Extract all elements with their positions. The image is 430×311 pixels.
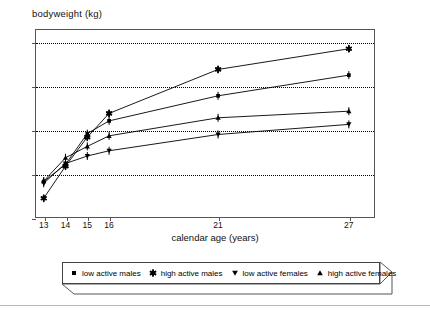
legend-item-low-active-females[interactable]: low active females — [230, 268, 308, 278]
x-tick-label: 13 — [39, 220, 48, 230]
triangle-down-marker-icon — [230, 268, 240, 278]
x-axis-label: calendar age (years) — [0, 232, 430, 243]
y-tick-mark — [32, 43, 36, 44]
x-tick-label: 14 — [61, 220, 70, 230]
legend-item-high-active-females[interactable]: high active females — [315, 268, 396, 278]
x-tick-label: 15 — [83, 220, 92, 230]
gridline — [36, 175, 374, 176]
legend-label: high active females — [328, 269, 396, 278]
legend-item-high-active-males[interactable]: high active males — [148, 268, 223, 278]
legend-label: low active males — [82, 269, 141, 278]
legend-label: high active males — [161, 269, 223, 278]
y-tick-mark — [32, 175, 36, 176]
square-marker-icon — [69, 268, 79, 278]
legend-box: low active maleshigh active maleslow act… — [62, 262, 380, 284]
x-tick-label: 16 — [104, 220, 113, 230]
x-tick-label: 21 — [213, 220, 222, 230]
gridline — [36, 87, 374, 88]
plot-area — [35, 29, 375, 218]
y-tick-mark — [32, 131, 36, 132]
star-marker-icon — [148, 268, 158, 278]
footer-divider — [0, 305, 430, 306]
chart-legend: low active maleshigh active maleslow act… — [62, 262, 398, 296]
x-tick-label: 27 — [344, 220, 353, 230]
legend-label: low active females — [243, 269, 308, 278]
y-tick-mark — [32, 87, 36, 88]
triangle-up-marker-icon — [315, 268, 325, 278]
gridline — [36, 131, 374, 132]
chart-figure: bodyweight (kg) 4050607080 131415162127 … — [0, 0, 430, 311]
gridline — [36, 43, 374, 44]
chart-title: bodyweight (kg) — [32, 8, 102, 19]
legend-item-low-active-males[interactable]: low active males — [69, 268, 141, 278]
y-tick-mark — [32, 219, 36, 220]
